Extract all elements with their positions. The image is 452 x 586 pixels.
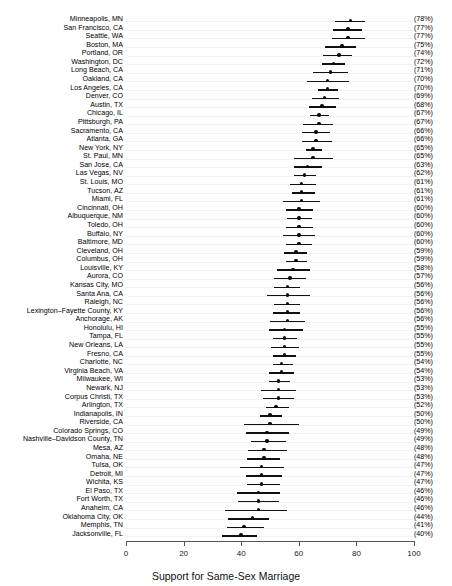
- row-value-label: (53%): [414, 393, 452, 402]
- gridline: [126, 253, 414, 254]
- row-label-city: Arlington, TX: [0, 401, 123, 410]
- row-value-label: (57%): [414, 272, 452, 281]
- gridline: [126, 364, 414, 365]
- row-value-label: (60%): [414, 221, 452, 230]
- x-axis-tick: [184, 541, 185, 546]
- row-label-city: New Orleans, LA: [0, 341, 123, 350]
- row-value-label: (68%): [414, 101, 452, 110]
- data-point: [239, 533, 243, 537]
- gridline: [126, 210, 414, 211]
- row-label-city: Chicago, IL: [0, 109, 123, 118]
- gridline: [126, 116, 414, 117]
- row-label-city: Memphis, TN: [0, 521, 123, 530]
- data-point: [291, 268, 295, 272]
- x-axis-line: [126, 541, 414, 542]
- gridline: [126, 81, 414, 82]
- row-label-city: Miami, FL: [0, 195, 123, 204]
- row-value-label: (55%): [414, 350, 452, 359]
- row-value-label: (63%): [414, 161, 452, 170]
- gridline: [126, 73, 414, 74]
- gridline: [126, 262, 414, 263]
- row-value-label: (44%): [414, 513, 452, 522]
- row-value-label: (60%): [414, 212, 452, 221]
- row-value-label: (56%): [414, 315, 452, 324]
- gridline: [126, 141, 414, 142]
- data-point: [294, 250, 298, 254]
- x-axis-tick: [356, 541, 357, 546]
- gridline: [126, 528, 414, 529]
- row-label-city: Omaha, NE: [0, 453, 123, 462]
- x-axis: 020406080100 Support for Same-Sex Marria…: [0, 541, 452, 586]
- error-bar: [290, 184, 316, 185]
- row-label-city: Atlanta, GA: [0, 135, 123, 144]
- data-point: [262, 456, 266, 460]
- row-label-city: Fort Worth, TX: [0, 495, 123, 504]
- gridline: [126, 90, 414, 91]
- chart-row: Jacksonville, FL(40%): [0, 532, 452, 541]
- data-point: [337, 53, 341, 57]
- gridline: [126, 279, 414, 280]
- gridline: [126, 219, 414, 220]
- data-point: [297, 233, 301, 237]
- data-point: [283, 336, 287, 340]
- data-point: [265, 439, 269, 443]
- data-point: [262, 448, 266, 452]
- data-point: [297, 225, 301, 229]
- gridline: [126, 356, 414, 357]
- dotplot-chart: Minneapolis, MN(78%)San Francisco, CA(77…: [0, 0, 452, 586]
- row-label-city: Albuquerque, NM: [0, 212, 123, 221]
- row-value-label: (66%): [414, 127, 452, 136]
- row-label-city: Sacramento, CA: [0, 127, 123, 136]
- row-label-city: Nashville–Davidson County, TN: [0, 435, 123, 444]
- row-value-label: (46%): [414, 487, 452, 496]
- gridline: [126, 339, 414, 340]
- row-value-label: (56%): [414, 298, 452, 307]
- gridline: [126, 347, 414, 348]
- row-value-label: (72%): [414, 58, 452, 67]
- x-axis-tick: [126, 541, 127, 546]
- row-label-city: Louisville, KY: [0, 264, 123, 273]
- gridline: [126, 313, 414, 314]
- row-value-label: (55%): [414, 341, 452, 350]
- x-axis-tick: [299, 541, 300, 546]
- row-value-label: (49%): [414, 427, 452, 436]
- row-label-city: Fresno, CA: [0, 350, 123, 359]
- row-value-label: (65%): [414, 152, 452, 161]
- row-value-label: (46%): [414, 504, 452, 513]
- gridline: [126, 227, 414, 228]
- row-label-city: Virginia Beach, VA: [0, 367, 123, 376]
- x-axis-tick-label: 80: [352, 549, 361, 558]
- data-point: [286, 293, 290, 297]
- x-axis-title: Support for Same-Sex Marriage: [0, 570, 452, 582]
- data-point: [297, 216, 301, 220]
- row-label-city: Washington, DC: [0, 58, 123, 67]
- row-value-label: (46%): [414, 495, 452, 504]
- row-value-label: (47%): [414, 470, 452, 479]
- data-point: [265, 431, 269, 435]
- row-value-label: (60%): [414, 238, 452, 247]
- error-bar: [273, 364, 293, 365]
- row-label-city: St. Louis, MO: [0, 178, 123, 187]
- gridline: [126, 193, 414, 194]
- data-point: [257, 499, 261, 503]
- data-point: [317, 113, 321, 117]
- error-bar: [247, 484, 280, 485]
- row-value-label: (41%): [414, 521, 452, 530]
- row-label-city: Cincinnati, OH: [0, 204, 123, 213]
- row-value-label: (48%): [414, 453, 452, 462]
- row-label-city: El Paso, TX: [0, 487, 123, 496]
- row-value-label: (75%): [414, 41, 452, 50]
- row-value-label: (71%): [414, 66, 452, 75]
- data-point: [329, 70, 333, 74]
- x-axis-tick: [414, 541, 415, 546]
- row-value-label: (77%): [414, 24, 452, 33]
- gridline: [126, 30, 414, 31]
- data-point: [320, 104, 324, 108]
- x-axis-tick-label: 20: [179, 549, 188, 558]
- row-value-label: (55%): [414, 332, 452, 341]
- data-point: [317, 122, 321, 126]
- data-point: [288, 276, 292, 280]
- data-point: [286, 285, 290, 289]
- row-value-label: (50%): [414, 410, 452, 419]
- data-point: [286, 310, 290, 314]
